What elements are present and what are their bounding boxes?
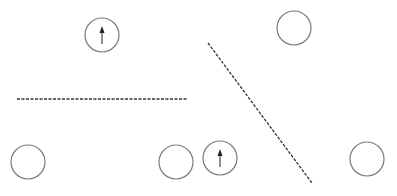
circle-1-with-arrow xyxy=(85,18,119,52)
diagram-canvas xyxy=(0,0,397,196)
circle-6 xyxy=(350,142,384,176)
circle-outline xyxy=(277,11,311,45)
circle-2 xyxy=(277,11,311,45)
arrow-up-icon xyxy=(218,149,223,167)
circle-4 xyxy=(159,145,193,179)
circles xyxy=(11,11,384,179)
circle-outline xyxy=(159,145,193,179)
circle-5-with-arrow xyxy=(203,141,237,175)
circle-outline xyxy=(11,145,45,179)
dashed-lines xyxy=(17,43,312,183)
arrow-up-icon xyxy=(100,26,105,44)
circle-outline xyxy=(350,142,384,176)
circle-3 xyxy=(11,145,45,179)
line-diagonal xyxy=(208,43,312,183)
